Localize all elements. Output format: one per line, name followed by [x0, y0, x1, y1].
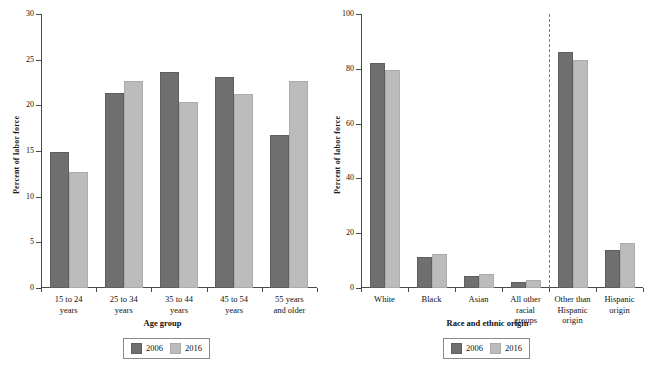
y-axis-tick-label: 80	[325, 65, 354, 73]
y-axis-tick	[36, 242, 41, 243]
bar-2016	[289, 81, 308, 288]
y-axis-tick	[36, 60, 41, 61]
chart-legend-race-ethnic-origin: 2006 2016	[443, 338, 530, 359]
chart-panel-age-group: Percent of labor force Age group 2006 20…	[0, 0, 325, 379]
plot-area-race-ethnic-origin	[361, 14, 643, 288]
y-axis-tick-label: 40	[325, 174, 354, 182]
y-axis-tick	[356, 124, 361, 125]
y-axis-tick-label: 10	[0, 193, 34, 201]
bar-2006	[417, 257, 432, 289]
legend-item-2006: 2006	[451, 343, 483, 354]
bar-2006	[160, 72, 179, 288]
bar-2016	[179, 102, 198, 288]
bar-2016	[69, 172, 88, 288]
y-axis-line	[361, 14, 362, 288]
y-axis-tick	[356, 233, 361, 234]
y-axis-tick-label: 20	[325, 229, 354, 237]
bar-2006	[270, 135, 289, 288]
x-axis-tick	[596, 288, 597, 292]
bar-2016	[573, 60, 588, 288]
y-axis-tick-label: 20	[0, 101, 34, 109]
x-axis-title: Age group	[0, 318, 325, 328]
legend-label-2006: 2006	[466, 344, 483, 353]
y-axis-tick	[36, 197, 41, 198]
bar-2006	[605, 250, 620, 288]
x-axis-tick	[549, 288, 550, 292]
bar-2006	[50, 152, 69, 288]
bar-2016	[385, 70, 400, 288]
bar-2006	[511, 282, 526, 288]
figure-container: Percent of labor force Age group 2006 20…	[0, 0, 650, 379]
legend-label-2016: 2016	[185, 344, 202, 353]
y-axis-tick-label: 60	[325, 120, 354, 128]
plot-area-age-group	[41, 14, 317, 288]
y-axis-tick-label: 0	[325, 284, 354, 292]
y-axis-tick	[36, 105, 41, 106]
series-2016-swatch	[170, 343, 181, 354]
group-divider-line	[549, 14, 550, 288]
x-axis-tick	[408, 288, 409, 292]
bar-2016	[620, 243, 635, 288]
legend-label-2006: 2006	[146, 344, 163, 353]
x-axis-tick	[455, 288, 456, 292]
y-axis-tick-label: 0	[0, 284, 34, 292]
bar-2016	[526, 280, 541, 288]
legend-item-2016: 2016	[170, 343, 202, 354]
y-axis-tick	[356, 69, 361, 70]
bar-2006	[215, 77, 234, 288]
legend-item-2006: 2006	[131, 343, 163, 354]
y-axis-tick-label: 25	[0, 56, 34, 64]
x-axis-tick	[502, 288, 503, 292]
x-axis-tick	[262, 288, 263, 292]
bar-2006	[370, 63, 385, 288]
x-axis-tick	[41, 288, 42, 292]
legend-item-2016: 2016	[490, 343, 522, 354]
x-axis-tick	[207, 288, 208, 292]
y-axis-tick	[36, 151, 41, 152]
bar-2016	[479, 274, 494, 288]
x-axis-tick	[96, 288, 97, 292]
y-axis-tick-label: 100	[325, 10, 354, 18]
series-2006-swatch	[131, 343, 142, 354]
x-axis-tick	[643, 288, 644, 292]
bar-2006	[464, 276, 479, 288]
y-axis-tick-label: 15	[0, 147, 34, 155]
chart-legend-age-group: 2006 2016	[123, 338, 210, 359]
bar-2016	[234, 94, 253, 288]
y-axis-tick	[356, 178, 361, 179]
bar-2016	[124, 81, 143, 288]
bar-2006	[558, 52, 573, 288]
bar-2006	[105, 93, 124, 288]
y-axis-tick	[36, 14, 41, 15]
y-axis-tick-label: 5	[0, 238, 34, 246]
legend-label-2016: 2016	[505, 344, 522, 353]
x-axis-category-label: 55 yearsand older	[256, 294, 323, 315]
x-axis-tick	[151, 288, 152, 292]
bar-2016	[432, 254, 447, 288]
y-axis-tick	[356, 14, 361, 15]
x-axis-tick	[361, 288, 362, 292]
y-axis-tick-label: 30	[0, 10, 34, 18]
series-2006-swatch	[451, 343, 462, 354]
series-2016-swatch	[490, 343, 501, 354]
x-axis-category-label: Hispanicorigin	[590, 294, 649, 315]
y-axis-line	[41, 14, 42, 288]
x-axis-tick	[317, 288, 318, 292]
chart-panel-race-ethnic-origin: Percent of labor force Race and ethnic o…	[325, 0, 650, 379]
